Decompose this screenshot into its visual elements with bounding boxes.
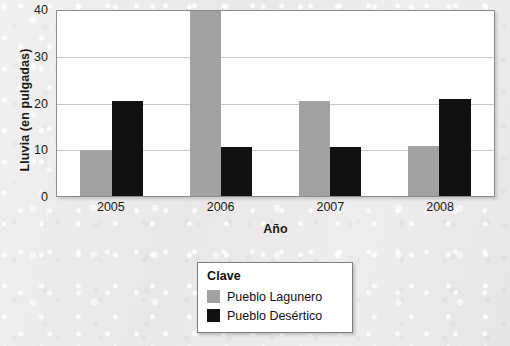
bar-2008-lagunero	[408, 146, 439, 196]
bar-2007-desertico	[330, 147, 361, 196]
y-tick-label-10: 10	[18, 144, 48, 157]
legend-item-pueblo-desertico: Pueblo Desértico	[207, 306, 343, 325]
y-tick-label-20: 20	[18, 97, 48, 110]
bar-2007-lagunero	[299, 101, 330, 196]
legend-title: Clave	[207, 269, 343, 283]
x-tick-label-2008: 2008	[426, 200, 454, 214]
x-axis-title: Año	[56, 222, 495, 236]
legend-item-pueblo-lagunero: Pueblo Lagunero	[207, 287, 343, 306]
bar-chart-figure: Lluvia (en pulgadas) 40 30 20 10 0 2005 …	[0, 0, 510, 346]
legend-swatch-icon-desertico	[207, 309, 220, 322]
bar-2006-desertico	[221, 147, 252, 196]
y-tick-label-40: 40	[18, 4, 48, 17]
x-axis-tick-labels: 2005 2006 2007 2008	[56, 200, 495, 218]
y-tick-label-30: 30	[18, 51, 48, 64]
chart-title	[0, 0, 510, 3]
x-tick-label-2005: 2005	[97, 200, 125, 214]
x-tick-label-2007: 2007	[316, 200, 344, 214]
bar-2005-lagunero	[80, 150, 111, 196]
legend-label-desertico: Pueblo Desértico	[227, 309, 322, 323]
bar-2005-desertico	[112, 101, 143, 196]
legend-label-lagunero: Pueblo Lagunero	[227, 290, 322, 304]
legend-box: Clave Pueblo Lagunero Pueblo Desértico	[197, 262, 353, 333]
plot-area	[56, 10, 495, 197]
legend-swatch-icon-lagunero	[207, 290, 220, 303]
bar-2008-desertico	[439, 99, 470, 196]
x-tick-label-2006: 2006	[207, 200, 235, 214]
gridline-30	[57, 57, 494, 58]
bar-2006-lagunero	[190, 10, 221, 196]
y-axis-tick-labels: 40 30 20 10 0	[18, 10, 48, 197]
y-tick-label-0: 0	[18, 191, 48, 204]
